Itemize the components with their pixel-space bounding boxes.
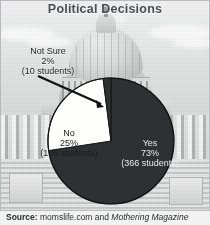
slice-label-yes: Yes 73% (366 students) <box>107 138 193 168</box>
slice-label-yes-percent: 73% <box>107 148 193 158</box>
slice-label-no-name: No <box>27 128 111 138</box>
chart-title: Political Decisions <box>0 2 210 16</box>
slice-label-not-sure-name: Not Sure <box>4 46 92 56</box>
slice-label-no: No 25% (126 students) <box>27 128 111 158</box>
slice-label-yes-count: (366 students) <box>107 158 193 168</box>
source-publication: Mothering Magazine <box>111 212 188 222</box>
slice-label-no-percent: 25% <box>27 138 111 148</box>
slice-label-not-sure: Not Sure 2% (10 students) <box>4 46 92 76</box>
slice-label-not-sure-percent: 2% <box>4 56 92 66</box>
slice-label-not-sure-count: (10 students) <box>4 66 92 76</box>
slice-label-yes-name: Yes <box>107 138 193 148</box>
cloud-shape <box>173 38 210 48</box>
pie-chart-figure: Political Decisions Not Sure 2% (10 stud… <box>0 0 210 225</box>
capitol-plinth-left <box>9 173 43 203</box>
source-line: Source: momslife.com and Mothering Magaz… <box>0 212 210 222</box>
source-label: Source: <box>6 212 38 222</box>
slice-label-no-count: (126 students) <box>27 148 111 158</box>
source-text: momslife.com and <box>38 212 112 222</box>
